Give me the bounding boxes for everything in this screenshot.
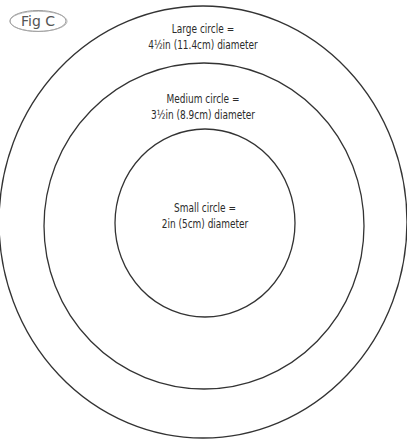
medium-circle-size: 3½in (8.9cm) diameter bbox=[141, 107, 266, 123]
medium-circle-label: Medium circle = 3½in (8.9cm) diameter bbox=[141, 91, 266, 123]
figure-label: Fig C bbox=[8, 12, 68, 30]
large-circle-title: Large circle = bbox=[141, 21, 266, 37]
large-circle-label: Large circle = 4½in (11.4cm) diameter bbox=[141, 21, 266, 53]
medium-circle-title: Medium circle = bbox=[141, 91, 266, 107]
small-circle-label: Small circle = 2in (5cm) diameter bbox=[143, 200, 268, 232]
large-circle-size: 4½in (11.4cm) diameter bbox=[141, 37, 266, 53]
small-circle-title: Small circle = bbox=[143, 200, 268, 216]
figure-badge: Fig C bbox=[8, 9, 68, 33]
small-circle-size: 2in (5cm) diameter bbox=[143, 216, 268, 232]
